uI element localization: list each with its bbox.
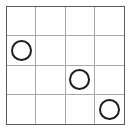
grid-cell-r3-c2[interactable] [36, 66, 65, 95]
grid-cell-r2-c4[interactable] [95, 36, 124, 65]
grid-cell-r4-c4[interactable] [95, 95, 124, 124]
puzzle-canvas [0, 0, 132, 131]
grid-cell-r2-c1[interactable] [7, 36, 36, 65]
grid-cell-r2-c2[interactable] [36, 36, 65, 65]
grid-cell-r4-c2[interactable] [36, 95, 65, 124]
grid-cell-r1-c4[interactable] [95, 7, 124, 36]
grid-cell-r3-c1[interactable] [7, 66, 36, 95]
circle-token[interactable] [11, 40, 32, 61]
grid-cell-r1-c2[interactable] [36, 7, 65, 36]
grid-cell-r4-c3[interactable] [66, 95, 95, 124]
grid-cell-r1-c1[interactable] [7, 7, 36, 36]
circle-token[interactable] [99, 99, 120, 120]
grid-cell-r3-c3[interactable] [66, 66, 95, 95]
grid-board[interactable] [6, 6, 125, 125]
grid-cell-r1-c3[interactable] [66, 7, 95, 36]
grid-cell-r2-c3[interactable] [66, 36, 95, 65]
grid-cell-r3-c4[interactable] [95, 66, 124, 95]
grid-cell-r4-c1[interactable] [7, 95, 36, 124]
circle-token[interactable] [69, 69, 90, 90]
